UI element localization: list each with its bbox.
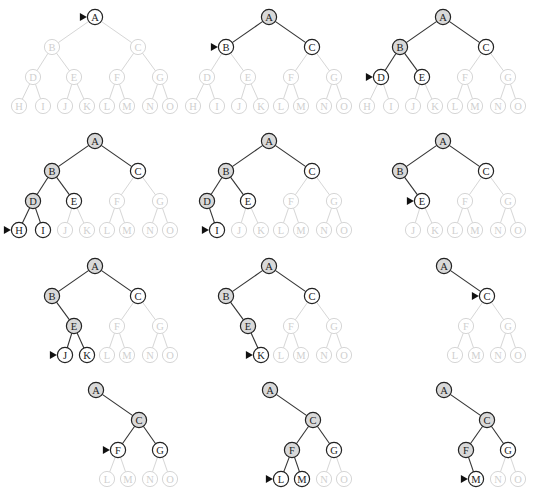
node-D: D: [25, 69, 40, 84]
node-label: G: [330, 72, 338, 83]
node-label: M: [296, 101, 306, 112]
edge-G-O: [162, 457, 167, 472]
node-O: O: [336, 347, 351, 362]
node-B: B: [392, 163, 407, 178]
node-G: G: [326, 442, 341, 457]
edge-B-D: [211, 53, 222, 70]
node-label: O: [514, 474, 522, 485]
node-label: B: [48, 166, 55, 177]
node-F: F: [283, 318, 298, 333]
node-C: C: [304, 288, 319, 303]
node-K: K: [427, 98, 442, 113]
node-label: L: [278, 101, 284, 112]
node-label: H: [363, 101, 371, 112]
node-M: M: [294, 471, 309, 486]
node-label: N: [146, 350, 154, 361]
node-label: M: [122, 101, 132, 112]
edge-D-H: [22, 208, 29, 223]
node-label: I: [41, 101, 45, 112]
node-C: C: [131, 412, 146, 427]
node-F: F: [457, 69, 472, 84]
node-A: A: [261, 9, 276, 24]
edge-F-L: [109, 84, 114, 99]
node-M: M: [293, 98, 308, 113]
node-A: A: [87, 133, 102, 148]
node-L: L: [273, 471, 288, 486]
node-F: F: [109, 193, 124, 208]
node-N: N: [490, 222, 505, 237]
node-label: N: [320, 350, 328, 361]
node-label: C: [134, 291, 141, 302]
node-label: N: [146, 474, 154, 485]
node-N: N: [142, 98, 157, 113]
node-label: G: [156, 445, 164, 456]
edge-B-E: [404, 53, 417, 71]
edge-A-C: [101, 270, 132, 291]
node-label: O: [514, 225, 522, 236]
node-E: E: [414, 69, 429, 84]
node-label: N: [146, 225, 154, 236]
panel-12: ACFGMNO: [436, 382, 525, 486]
edge-A-C: [449, 145, 480, 166]
node-label: F: [288, 72, 294, 83]
node-N: N: [316, 98, 331, 113]
edge-B-E: [56, 53, 69, 71]
node-label: D: [203, 72, 211, 83]
node-G: G: [326, 69, 341, 84]
node-label: L: [104, 101, 110, 112]
edge-A-C: [101, 145, 132, 166]
node-label: C: [482, 166, 489, 177]
edge-A-B: [406, 21, 437, 42]
edge-G-N: [326, 84, 331, 99]
edge-C-G: [143, 426, 155, 444]
pointer-arrow-icon: [461, 475, 468, 483]
panel-4: ABCDEFGHIJKLMNO: [4, 133, 178, 237]
node-H: H: [11, 222, 26, 237]
node-label: A: [265, 12, 273, 23]
node-label: C: [135, 415, 142, 426]
node-label: E: [71, 196, 77, 207]
node-label: J: [237, 225, 241, 236]
node-label: F: [114, 321, 120, 332]
edge-F-M: [467, 84, 472, 99]
edge-A-C: [276, 394, 307, 415]
edge-F-L: [457, 208, 462, 223]
node-label: A: [91, 12, 99, 23]
node-label: G: [504, 196, 512, 207]
node-label: L: [278, 474, 284, 485]
node-G: G: [500, 193, 515, 208]
node-label: F: [288, 321, 294, 332]
node-label: J: [411, 101, 415, 112]
node-label: D: [29, 72, 37, 83]
panel-5: ABCDEFGIJKLMNO: [199, 133, 351, 237]
node-L: L: [447, 98, 462, 113]
node-K: K: [253, 347, 268, 362]
node-label: N: [320, 474, 328, 485]
node-label: O: [514, 350, 522, 361]
edge-A-C: [450, 394, 481, 415]
node-label: G: [330, 196, 338, 207]
node-I: I: [383, 98, 398, 113]
node-label: M: [296, 225, 306, 236]
edge-F-M: [119, 333, 124, 348]
edge-A-B: [232, 270, 263, 291]
node-label: A: [440, 385, 448, 396]
node-label: L: [104, 350, 110, 361]
node-label: F: [114, 196, 120, 207]
node-C: C: [479, 288, 494, 303]
edge-C-G: [490, 53, 503, 71]
edge-E-K: [251, 84, 258, 99]
edge-F-M: [468, 457, 473, 472]
node-label: B: [222, 42, 229, 53]
node-label: F: [463, 445, 469, 456]
edge-G-O: [510, 208, 515, 223]
node-label: M: [122, 350, 132, 361]
node-O: O: [510, 98, 525, 113]
node-label: C: [483, 415, 490, 426]
edge-C-G: [142, 177, 155, 195]
edge-A-B: [58, 270, 89, 291]
edge-B-E: [230, 53, 243, 71]
node-A: A: [262, 382, 277, 397]
edge-E-K: [425, 208, 432, 223]
node-label: D: [203, 196, 211, 207]
